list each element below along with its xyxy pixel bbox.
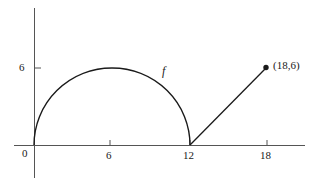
endpoint-marker	[263, 65, 268, 70]
y-tick-label-6: 6	[19, 62, 25, 73]
x-tick-label-12: 12	[183, 150, 194, 161]
endpoint-coordinate-label: (18,6)	[273, 60, 300, 71]
x-tick-label-18: 18	[260, 150, 271, 161]
semicircle-curve	[34, 68, 190, 145]
function-graph-figure: 0 6 12 18 6 f (18,6)	[0, 0, 315, 183]
origin-label: 0	[22, 148, 28, 159]
x-tick-label-6: 6	[106, 150, 112, 161]
line-segment	[190, 68, 266, 145]
function-label: f	[162, 65, 165, 77]
